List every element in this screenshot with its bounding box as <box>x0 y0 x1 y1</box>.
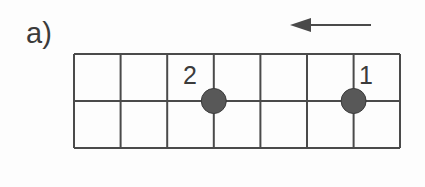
arrow-head-left-icon <box>290 18 311 32</box>
particle-group: 21 <box>183 61 373 114</box>
particle-circle-1 <box>341 89 366 114</box>
particle-circle-2 <box>201 89 226 114</box>
figure-panel-a: a) 21 <box>0 0 425 187</box>
direction-arrow <box>290 18 371 32</box>
particle-label-1: 1 <box>359 61 373 89</box>
particle-label-2: 2 <box>183 61 197 89</box>
lattice-diagram: 21 <box>0 0 425 187</box>
